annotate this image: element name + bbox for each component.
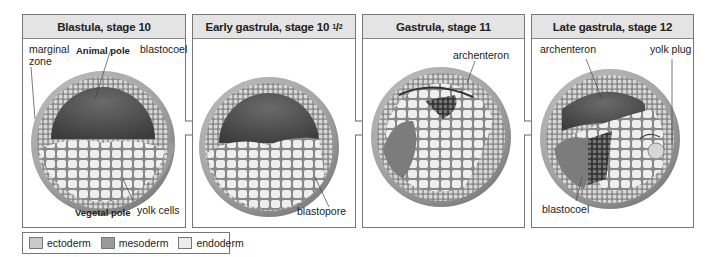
blastula-embryo-illustration <box>23 39 185 228</box>
title-fraction-numerator: 1 <box>332 23 336 30</box>
label-marginal-zone: marginalzone <box>29 43 69 67</box>
ectoderm-swatch <box>29 237 43 249</box>
legend-item-ectoderm: ectoderm <box>29 237 91 249</box>
label-text: marginal <box>29 43 69 55</box>
label-blastopore: blastopore <box>297 205 346 217</box>
legend-item-endoderm: endoderm <box>178 237 243 249</box>
panel-late-gastrula: Late gastrula, stage 12 archenteron yolk… <box>531 14 694 228</box>
panel-title: Late gastrula, stage 12 <box>532 15 693 39</box>
panel-blastula: Blastula, stage 10 marginalzone Animal p… <box>22 14 186 228</box>
legend-label: mesoderm <box>119 237 169 249</box>
panel-title: Gastrula, stage 11 <box>363 15 524 39</box>
panel-early-gastrula: Early gastrula, stage 10 1/2 blastopore <box>192 14 356 228</box>
title-text: Gastrula, stage 11 <box>396 21 491 33</box>
mesoderm-swatch <box>101 237 115 249</box>
legend-item-mesoderm: mesoderm <box>101 237 169 249</box>
label-yolk-plug: yolk plug <box>650 43 691 55</box>
title-text: Early gastrula, stage 10 <box>205 21 329 33</box>
label-yolk-cells: yolk cells <box>137 204 180 216</box>
label-blastocoel: blastocoel <box>542 203 589 215</box>
legend: ectoderm mesoderm endoderm <box>22 232 230 254</box>
title-fraction-denominator: 2 <box>339 23 343 30</box>
label-archenteron: archenteron <box>540 43 596 55</box>
label-archenteron: archenteron <box>453 49 509 61</box>
panel-title: Blastula, stage 10 <box>23 15 185 39</box>
label-vegetal-pole: Vegetal pole <box>75 207 130 218</box>
panel-title: Early gastrula, stage 10 1/2 <box>193 15 355 39</box>
panel-gastrula: Gastrula, stage 11 archenteron <box>362 14 525 228</box>
legend-label: endoderm <box>196 237 243 249</box>
label-animal-pole: Animal pole <box>76 45 130 56</box>
early-gastrula-embryo-illustration <box>193 39 355 228</box>
label-blastocoel: blastocoel <box>140 43 187 55</box>
label-text: zone <box>29 55 52 67</box>
late-gastrula-embryo-illustration <box>532 39 693 228</box>
title-text: Blastula, stage 10 <box>57 21 151 33</box>
legend-label: ectoderm <box>47 237 91 249</box>
title-text: Late gastrula, stage 12 <box>553 21 672 33</box>
endoderm-swatch <box>178 237 192 249</box>
gastrula-embryo-illustration <box>363 39 524 228</box>
